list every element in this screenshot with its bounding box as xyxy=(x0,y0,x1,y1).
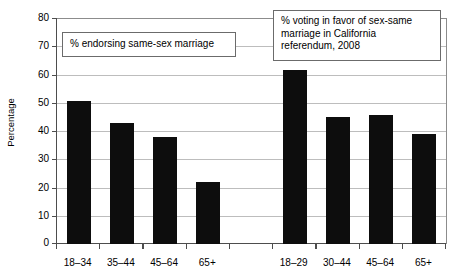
y-tick-label-50: 50 xyxy=(38,98,49,108)
x-tick-label-8: 65+ xyxy=(402,257,445,268)
bar-65plus-endorsing xyxy=(196,182,220,244)
bar-45-64-referendum xyxy=(369,115,393,244)
x-tick-label-3: 65+ xyxy=(186,257,229,268)
x-slot-1: 35–44 xyxy=(99,244,142,272)
bar-18-34-endorsing xyxy=(67,101,91,244)
y-tick-label-20: 20 xyxy=(38,183,49,193)
y-axis-title-label: Percentage xyxy=(5,98,16,147)
bar-chart: Percentage 80 70 60 50 40 30 xyxy=(0,0,455,272)
bar-35-44-endorsing xyxy=(110,123,134,244)
bar-65plus-referendum xyxy=(412,134,436,244)
y-tick-label-80: 80 xyxy=(38,13,49,23)
y-tick-label-60: 60 xyxy=(38,70,49,80)
bar-45-64-endorsing xyxy=(153,137,177,244)
x-slot-5: 18–29 xyxy=(272,244,315,272)
x-tick-label-2: 45–64 xyxy=(142,257,185,268)
y-tick-label-70: 70 xyxy=(38,41,49,51)
y-tick-label-40: 40 xyxy=(38,126,49,136)
x-slot-2: 45–64 xyxy=(142,244,185,272)
x-slot-spacer xyxy=(229,244,272,272)
annotation-endorsing-same-sex-marriage: % endorsing same-sex marriage xyxy=(62,32,236,57)
x-slot-6: 30–44 xyxy=(315,244,358,272)
x-slot-3: 65+ xyxy=(186,244,229,272)
y-tick-label-30: 30 xyxy=(38,154,49,164)
x-tick-label-6: 30–44 xyxy=(315,257,358,268)
bar-slot-spacer xyxy=(230,18,273,244)
x-tick-label-5: 18–29 xyxy=(272,257,315,268)
x-slot-8: 65+ xyxy=(402,244,445,272)
y-tick-label-10: 10 xyxy=(38,211,49,221)
y-axis-title: Percentage xyxy=(2,0,18,244)
x-axis: 18–34 35–44 45–64 65+ 18–29 30–44 45–6 xyxy=(56,244,445,272)
x-tick-label-0: 18–34 xyxy=(56,257,99,268)
x-tick-label-1: 35–44 xyxy=(99,257,142,268)
bar-30-44-referendum xyxy=(326,117,350,244)
annotation-california-referendum-2008: % voting in favor of sex-same marriage i… xyxy=(273,10,441,61)
x-slot-0: 18–34 xyxy=(56,244,99,272)
bar-18-29-referendum xyxy=(283,70,307,244)
x-slot-7: 45–64 xyxy=(359,244,402,272)
x-tick-label-7: 45–64 xyxy=(359,257,402,268)
y-tick-label-0: 0 xyxy=(43,238,49,248)
